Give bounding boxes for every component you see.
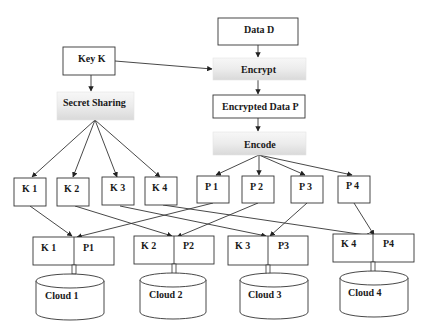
arrow-encode-to-p3	[259, 155, 305, 175]
cloud-1: Cloud 1	[36, 274, 104, 320]
pair-box-1: K 1 P1	[33, 237, 114, 265]
key-share-k2-label: K 2	[64, 183, 79, 194]
arrow-k1-to-pair1	[30, 206, 72, 236]
data-share-p1-label: P 1	[205, 181, 218, 192]
cloud-2: Cloud 2	[140, 273, 206, 319]
pair-1-data-label: P1	[83, 242, 94, 253]
data-share-p2-label: P 2	[250, 181, 263, 192]
secret-sharing-cloud-diagram: Data D Key K Encrypt Encrypted Data P Se…	[0, 0, 427, 334]
node-encode: Encode	[213, 132, 306, 155]
cloud-1-label: Cloud 1	[45, 290, 79, 301]
stems	[72, 262, 375, 274]
node-key-k: Key K	[63, 47, 115, 75]
key-share-k4: K 4	[145, 177, 177, 205]
pair-3-key-label: K 3	[235, 240, 250, 251]
node-encrypted-data-p-label: Encrypted Data P	[222, 101, 299, 112]
cloud-2-label: Cloud 2	[149, 289, 183, 300]
data-share-p2: P 2	[242, 176, 274, 203]
cloud-4: Cloud 4	[340, 271, 408, 317]
arrow-p4-to-pair4	[354, 203, 374, 235]
pair-box-2: K 2 P2	[134, 236, 214, 264]
data-share-p3-label: P 3	[299, 181, 312, 192]
pair-box-4: K 4 P4	[333, 234, 414, 262]
node-secret-sharing: Secret Sharing	[57, 92, 134, 120]
node-encode-label: Encode	[244, 139, 276, 150]
key-share-k1-label: K 1	[22, 183, 37, 194]
node-key-k-label: Key K	[78, 53, 106, 64]
node-secret-sharing-label: Secret Sharing	[63, 97, 126, 108]
key-share-k1: K 1	[14, 178, 46, 206]
node-data-d-label: Data D	[244, 24, 274, 35]
arrow-ss-to-k2	[73, 120, 95, 177]
cloud-4-label: Cloud 4	[348, 287, 382, 298]
node-encrypted-data-p: Encrypted Data P	[213, 95, 305, 118]
key-share-k4-label: K 4	[152, 182, 167, 193]
arrow-k4-to-pair4	[163, 205, 372, 236]
arrow-k2-to-pair2	[75, 206, 172, 236]
pair-box-3: K 3 P3	[228, 236, 308, 265]
pair-4-key-label: K 4	[341, 238, 356, 249]
arrow-ss-to-k1	[32, 120, 95, 177]
arrow-ss-to-k4	[95, 120, 160, 177]
cloud-3-label: Cloud 3	[248, 289, 282, 300]
data-share-p1: P 1	[197, 176, 229, 203]
pair-1-key-label: K 1	[41, 242, 56, 253]
key-share-k2: K 2	[57, 178, 89, 206]
cloud-3: Cloud 3	[240, 273, 308, 319]
pair-2-key-label: K 2	[141, 240, 156, 251]
pair-3-data-label: P3	[278, 240, 289, 251]
arrow-ss-to-k3	[95, 120, 117, 177]
pair-2-data-label: P2	[183, 240, 194, 251]
arrow-p1-to-pair1	[77, 203, 213, 237]
arrow-key-to-encrypt	[115, 61, 212, 69]
arrow-p3-to-pair3	[270, 203, 307, 236]
node-encrypt-label: Encrypt	[241, 64, 277, 75]
key-share-k3-label: K 3	[110, 182, 125, 193]
node-encrypt: Encrypt	[213, 58, 306, 80]
pair-4-data-label: P4	[383, 238, 394, 249]
arrow-encode-to-p1	[216, 155, 259, 175]
node-data-d: Data D	[218, 18, 298, 45]
data-share-p3: P 3	[291, 176, 323, 203]
data-share-p4-label: P 4	[346, 180, 359, 191]
key-share-k3: K 3	[102, 177, 134, 205]
arrow-encode-to-p4	[259, 155, 352, 175]
data-share-p4: P 4	[338, 176, 370, 203]
